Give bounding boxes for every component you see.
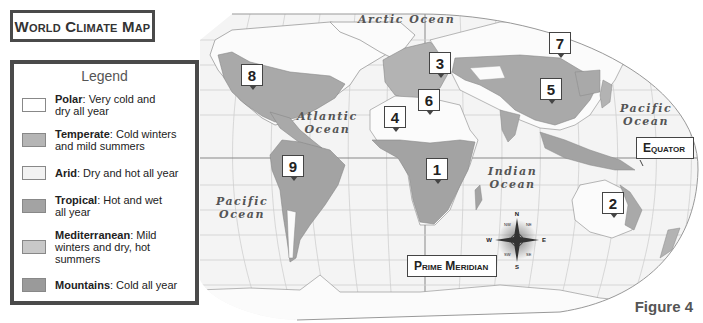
legend-item-tropical: Tropical: Hot and wet all year [22, 188, 195, 224]
arid-swatch [22, 166, 46, 180]
pacific-ocean-east-label: Pacific Ocean [620, 102, 672, 128]
legend-polar-name: Polar [55, 93, 83, 105]
legend-item-mountains: Mountains: Cold all year [22, 270, 195, 300]
svg-text:S: S [515, 264, 519, 270]
region-marker-6[interactable]: 6 [418, 89, 440, 111]
legend-tropical-name: Tropical [55, 194, 97, 206]
svg-text:NW: NW [504, 222, 511, 227]
region-marker-5[interactable]: 5 [540, 78, 562, 100]
legend-item-mediterranean: Mediterranean: Mild winters and dry, hot… [22, 224, 195, 270]
map-title-box: World Climate Map [10, 10, 155, 42]
arctic-ocean-label: Arctic Ocean [358, 13, 455, 26]
legend-temperate-name: Temperate [55, 128, 110, 140]
region-marker-9[interactable]: 9 [282, 155, 304, 177]
svg-text:E: E [542, 237, 546, 243]
pacific-ocean-west-label: Pacific Ocean [216, 195, 268, 221]
region-marker-3[interactable]: 3 [429, 52, 451, 74]
legend-arid-name: Arid [55, 167, 77, 179]
region-marker-1[interactable]: 1 [426, 158, 448, 180]
polar-swatch [22, 98, 46, 112]
tropical-swatch [22, 199, 46, 213]
mediterranean-swatch [22, 240, 46, 254]
svg-text:SW: SW [504, 252, 511, 257]
region-marker-7[interactable]: 7 [549, 32, 571, 54]
prime-meridian-callout: Prime Meridian [407, 255, 497, 277]
legend-mediterranean-name: Mediterranean [55, 229, 130, 241]
legend-item-arid: Arid: Dry and hot all year [22, 158, 195, 188]
region-marker-8[interactable]: 8 [241, 64, 263, 86]
legend: Legend Polar: Very cold and dry all year… [10, 60, 199, 305]
figure-label: Figure 4 [635, 298, 693, 315]
svg-text:SE: SE [526, 252, 532, 257]
legend-item-temperate: Temperate: Cold winters and mild summers [22, 122, 195, 158]
legend-item-polar: Polar: Very cold and dry all year [22, 88, 195, 122]
equator-callout: Equator [636, 137, 694, 159]
indian-ocean-label: Indian Ocean [488, 165, 537, 191]
svg-text:W: W [486, 237, 492, 243]
atlantic-ocean-label: Atlantic Ocean [297, 110, 358, 136]
region-marker-4[interactable]: 4 [384, 106, 406, 128]
legend-heading: Legend [14, 68, 195, 84]
legend-mountains-name: Mountains [55, 279, 110, 291]
mountains-swatch [22, 278, 46, 292]
map-title: World Climate Map [15, 18, 151, 35]
region-marker-2[interactable]: 2 [602, 192, 624, 214]
temperate-swatch [22, 133, 46, 147]
svg-text:N: N [515, 211, 519, 217]
svg-text:NE: NE [526, 222, 532, 227]
